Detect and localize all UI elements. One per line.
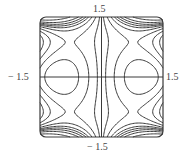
y-min-tick-label: − 1.5 [87,142,108,152]
x-min-tick-label: − 1.5 [8,72,29,82]
contour-plot [0,0,183,164]
y-max-tick-label: 1.5 [93,4,106,14]
x-max-tick-label: 1.5 [166,72,179,82]
